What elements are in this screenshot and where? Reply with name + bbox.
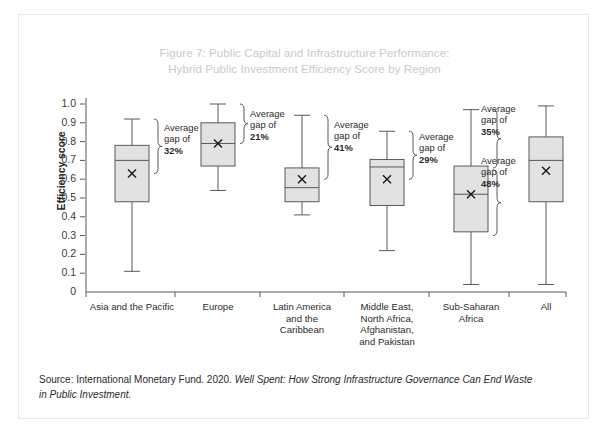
gap-annotation-line-1: Average (481, 155, 516, 166)
x-category-label: Latin Americaand theCaribbean (254, 301, 350, 336)
x-category-label: All (498, 301, 594, 313)
y-tick-label: 0.5 (42, 191, 76, 203)
gap-annotation-line-2: gap of (481, 114, 516, 125)
gap-annotation: Averagegap of41% (334, 119, 369, 153)
gap-annotation: Averagegap of35% (481, 103, 516, 137)
gap-annotation-line-2: gap of (250, 119, 285, 130)
gap-annotation: Averagegap of29% (419, 131, 454, 165)
y-tick-label: 0.6 (42, 172, 76, 184)
gap-annotation-line-1: Average (164, 122, 199, 133)
gap-brace (154, 119, 162, 174)
x-category-label: Middle East,North Africa,Afghanistan,and… (339, 301, 435, 347)
box-plot-6 (529, 106, 563, 285)
gap-annotation-value: 35% (481, 126, 516, 137)
x-category-label-line: and Pakistan (339, 336, 435, 348)
box-plot-4 (370, 131, 404, 250)
x-category-label-line: All (498, 301, 594, 313)
y-tick-label: 0.4 (42, 210, 76, 222)
gap-annotation-value: 41% (334, 142, 369, 153)
gap-annotation-line-2: gap of (334, 130, 369, 141)
plot-area: Efficiency score 00.10.20.30.40.50.60.70… (19, 15, 590, 420)
gap-annotation-line-2: gap of (419, 142, 454, 153)
gap-annotation-line-1: Average (334, 119, 369, 130)
x-category-label-line: North Africa, (339, 313, 435, 325)
x-category-label-line: Africa (423, 313, 519, 325)
x-category-label-line: Latin America (254, 301, 350, 313)
x-category-label-line: Asia and the Pacific (84, 301, 180, 313)
y-tick-label: 0.9 (42, 116, 76, 128)
y-tick-label: 0.7 (42, 153, 76, 165)
y-tick-label: 0.2 (42, 247, 76, 259)
gap-brace (240, 104, 248, 143)
source-note: Source: International Monetary Fund. 202… (39, 372, 539, 402)
gap-annotation-line-1: Average (250, 108, 285, 119)
boxplot-svg (19, 15, 590, 420)
x-category-label: Asia and the Pacific (84, 301, 180, 313)
y-tick-label: 0.8 (42, 135, 76, 147)
x-category-label-line: Middle East, (339, 301, 435, 313)
x-category-label-line: and the (254, 313, 350, 325)
x-category-label-line: Caribbean (254, 324, 350, 336)
y-tick-label: 0.3 (42, 229, 76, 241)
gap-annotation: Averagegap of32% (164, 122, 199, 156)
gap-annotation-line-1: Average (419, 131, 454, 142)
gap-annotation-value: 29% (419, 154, 454, 165)
gap-annotation-value: 32% (164, 145, 199, 156)
source-prefix: Source: International Monetary Fund. 202… (39, 374, 235, 385)
gap-brace (409, 131, 417, 179)
x-category-label: Europe (170, 301, 266, 313)
gap-annotation-value: 21% (250, 131, 285, 142)
gap-annotation-value: 48% (481, 178, 516, 189)
box-plot-2 (201, 104, 235, 190)
gap-annotation-line-2: gap of (481, 166, 516, 177)
figure-container: Figure 7: Public Capital and Infrastruct… (18, 14, 589, 419)
x-category-label-line: Europe (170, 301, 266, 313)
gap-annotation-line-2: gap of (164, 133, 199, 144)
gap-annotation-line-1: Average (481, 103, 516, 114)
box-plot-1 (115, 119, 149, 271)
gap-annotation: Averagegap of48% (481, 155, 516, 189)
y-tick-label: 0.1 (42, 266, 76, 278)
y-tick-label: 1.0 (42, 97, 76, 109)
x-category-label-line: Afghanistan, (339, 324, 435, 336)
box-plot-3 (285, 115, 319, 215)
y-tick-label: 0 (42, 285, 76, 297)
gap-brace (324, 115, 332, 179)
gap-annotation: Averagegap of21% (250, 108, 285, 142)
